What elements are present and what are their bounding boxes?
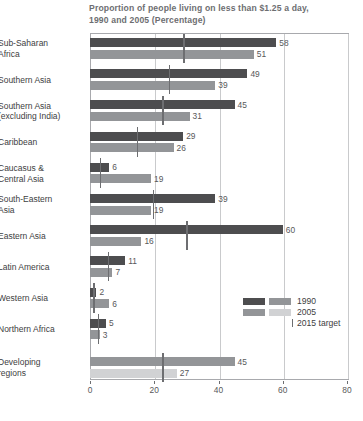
bar-2005 xyxy=(90,369,177,378)
category-label-line: Sub-Saharan xyxy=(0,38,48,48)
target-tick-2015 xyxy=(108,252,109,282)
category-label-line: Developing xyxy=(0,357,41,367)
target-tick-2015 xyxy=(98,314,99,344)
bar-2005 xyxy=(90,206,151,215)
legend-item: 2015 target xyxy=(243,318,351,329)
target-tick-2015 xyxy=(153,190,154,220)
bar-value-label-2005: 19 xyxy=(154,206,163,215)
bar-value-label-1990: 45 xyxy=(238,358,247,367)
x-axis-label-40: 40 xyxy=(214,385,223,395)
chart-title: Proportion of people living on less than… xyxy=(89,3,355,26)
target-tick-2015 xyxy=(186,221,187,251)
target-tick-2015 xyxy=(162,353,163,383)
x-axis: 020406080 xyxy=(90,381,349,401)
category-label-line: Caribbean xyxy=(0,137,37,147)
category-label: Caucasus &Central Asia xyxy=(0,163,86,184)
x-axis-label-20: 20 xyxy=(150,385,159,395)
legend-target-tick-icon xyxy=(292,319,293,327)
target-tick-2015 xyxy=(183,34,184,64)
category-label: Developingregions xyxy=(0,357,86,378)
target-tick-2015 xyxy=(93,283,94,313)
bar-value-label-2005: 16 xyxy=(144,237,153,246)
category-label: Latin America xyxy=(0,262,86,273)
bar-2005 xyxy=(90,112,190,121)
legend-swatch-secondary xyxy=(269,309,291,316)
legend-swatch-primary xyxy=(243,298,265,305)
category-label-line: Africa xyxy=(0,49,20,59)
chart-title-line-1: Proportion of people living on less than… xyxy=(89,3,309,13)
legend-label: 2005 xyxy=(297,307,316,318)
category-label-line: (excluding India) xyxy=(0,111,60,121)
category-axis-labels: Sub-SaharanAfricaSouthern AsiaSouthern A… xyxy=(0,33,86,380)
bar-value-label-1990: 45 xyxy=(238,101,247,110)
bar-value-label-2005: 51 xyxy=(257,50,266,59)
legend-label: 2015 target xyxy=(297,318,340,329)
bar-2005 xyxy=(90,268,112,277)
category-label: Western Asia xyxy=(0,293,86,304)
category-label-line: Southern Asia xyxy=(0,75,51,85)
category-label: Southern Asia(excluding India) xyxy=(0,101,86,122)
bar-value-label-1990: 60 xyxy=(286,226,295,235)
category-label-line: Eastern Asia xyxy=(0,231,46,241)
category-label: Sub-SaharanAfrica xyxy=(0,38,86,59)
x-axis-tick-60 xyxy=(283,381,284,384)
bar-value-label-1990: 49 xyxy=(250,70,259,79)
chart-legend: 199020052015 target xyxy=(243,296,351,329)
legend-label: 1990 xyxy=(297,296,316,307)
legend-item: 2005 xyxy=(243,307,351,318)
bar-2005 xyxy=(90,143,174,152)
bar-2005 xyxy=(90,81,215,90)
bar-2005 xyxy=(90,237,141,246)
target-tick-2015 xyxy=(137,127,138,157)
bar-value-label-2005: 31 xyxy=(193,112,202,121)
bar-value-label-1990: 6 xyxy=(112,163,117,172)
target-tick-2015 xyxy=(100,158,101,188)
bar-value-label-2005: 19 xyxy=(154,175,163,184)
bar-value-label-1990: 39 xyxy=(218,195,227,204)
category-label-line: Central Asia xyxy=(0,174,44,184)
bar-value-label-2005: 3 xyxy=(103,331,108,340)
category-label: South-EasternAsia xyxy=(0,194,86,215)
legend-swatch-primary xyxy=(243,309,265,316)
bar-value-label-2005: 6 xyxy=(112,300,117,309)
legend-item: 1990 xyxy=(243,296,351,307)
chart-title-line-2: 1990 and 2005 (Percentage) xyxy=(89,15,206,25)
x-axis-label-80: 80 xyxy=(342,385,351,395)
category-label-line: Caucasus & xyxy=(0,163,44,173)
bar-value-label-2005: 26 xyxy=(177,144,186,153)
category-label: Eastern Asia xyxy=(0,231,86,242)
x-axis-tick-80 xyxy=(347,381,348,384)
bar-value-label-2005: 7 xyxy=(115,268,120,277)
category-label-line: Latin America xyxy=(0,262,50,272)
bar-value-label-2005: 39 xyxy=(218,81,227,90)
x-axis-label-60: 60 xyxy=(278,385,287,395)
x-axis-tick-20 xyxy=(154,381,155,384)
target-tick-2015 xyxy=(162,96,163,126)
category-label-line: Western Asia xyxy=(0,293,48,303)
legend-swatch-secondary xyxy=(269,298,291,305)
bar-2005 xyxy=(90,50,254,59)
bar-value-label-2005: 27 xyxy=(180,369,189,378)
category-label-line: Asia xyxy=(0,205,15,215)
category-label-line: regions xyxy=(0,368,26,378)
chart-root: Proportion of people living on less than… xyxy=(0,0,363,421)
x-axis-tick-0 xyxy=(90,381,91,384)
bar-value-label-1990: 11 xyxy=(128,257,137,266)
category-label-line: Southern Asia xyxy=(0,101,51,111)
category-label: Caribbean xyxy=(0,137,86,148)
x-axis-tick-40 xyxy=(219,381,220,384)
category-label-line: South-Eastern xyxy=(0,194,52,204)
bar-value-label-1990: 29 xyxy=(186,132,195,141)
bar-value-label-1990: 5 xyxy=(109,319,114,328)
category-label: Southern Asia xyxy=(0,75,86,86)
bar-value-label-1990: 58 xyxy=(279,39,288,48)
category-label: Northern Africa xyxy=(0,324,86,335)
bar-value-label-1990: 2 xyxy=(99,288,104,297)
x-axis-label-0: 0 xyxy=(88,385,93,395)
target-tick-2015 xyxy=(169,65,170,95)
category-label-line: Northern Africa xyxy=(0,324,55,334)
